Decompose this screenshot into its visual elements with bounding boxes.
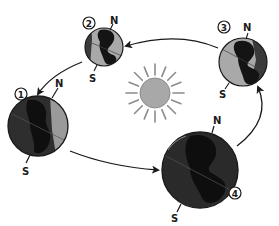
north-label: N xyxy=(110,15,118,26)
position-number: 4 xyxy=(232,189,238,199)
sun xyxy=(126,64,184,122)
orbit-diagram: N S 1 N S 2 N S 3 xyxy=(0,0,279,226)
axis-line xyxy=(52,88,58,98)
south-label: S xyxy=(22,166,29,177)
north-label: N xyxy=(55,78,63,89)
position-number: 1 xyxy=(18,90,24,100)
north-label: N xyxy=(243,22,251,33)
arrow-4-to-3 xyxy=(237,87,262,146)
south-label: S xyxy=(171,213,178,224)
earth-position-2: N S 2 xyxy=(83,15,123,84)
axis-line xyxy=(26,155,30,163)
axis-line xyxy=(177,204,181,212)
position-number: 2 xyxy=(86,19,92,29)
position-number: 3 xyxy=(221,23,227,33)
north-label: N xyxy=(213,115,221,126)
arrow-3-to-2 xyxy=(126,39,218,48)
earth-position-4: N S 4 xyxy=(162,115,241,224)
south-label: S xyxy=(89,73,96,84)
axis-line xyxy=(212,126,214,133)
earth-position-3: N S 3 xyxy=(218,21,267,100)
axis-line xyxy=(94,65,97,71)
south-label: S xyxy=(219,89,226,100)
arrow-1-to-4 xyxy=(70,151,158,170)
sun-disc xyxy=(140,78,170,108)
